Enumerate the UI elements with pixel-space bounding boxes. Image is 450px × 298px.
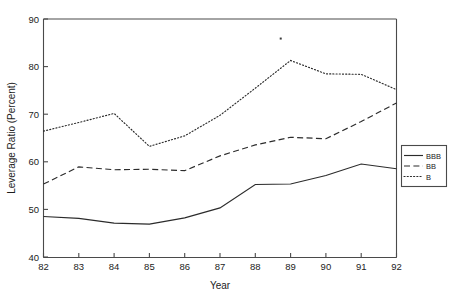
series-line-b bbox=[44, 61, 397, 147]
chart-figure: 90 80 70 60 50 40 82 83 84 85 8 bbox=[0, 0, 450, 298]
x-tick-label-86: 86 bbox=[179, 261, 190, 272]
data-series-group bbox=[44, 61, 397, 225]
x-axis-tick-labels: 82 83 84 85 86 87 88 89 90 91 92 bbox=[38, 261, 402, 272]
legend-label-bbb: BBB bbox=[426, 152, 441, 161]
x-tick-label-82: 82 bbox=[38, 261, 49, 272]
x-tick-label-88: 88 bbox=[250, 261, 261, 272]
legend-label-b: B bbox=[426, 173, 431, 182]
x-tick-label-92: 92 bbox=[391, 261, 402, 272]
y-axis-tick-labels: 90 80 70 60 50 40 bbox=[28, 14, 39, 263]
x-tick-label-91: 91 bbox=[356, 261, 367, 272]
y-tick-label-80: 80 bbox=[28, 61, 39, 72]
plot-frame bbox=[44, 19, 397, 258]
line-chart-canvas: 90 80 70 60 50 40 82 83 84 85 8 bbox=[0, 0, 450, 298]
x-tick-label-84: 84 bbox=[109, 261, 120, 272]
x-tick-label-85: 85 bbox=[144, 261, 155, 272]
x-tick-label-87: 87 bbox=[215, 261, 226, 272]
x-tick-label-89: 89 bbox=[285, 261, 296, 272]
y-axis-ticks bbox=[44, 19, 49, 257]
y-tick-label-90: 90 bbox=[28, 14, 39, 25]
legend-label-bb: BB bbox=[426, 162, 436, 171]
series-line-bbb bbox=[44, 164, 397, 224]
y-tick-label-60: 60 bbox=[28, 156, 39, 167]
x-tick-label-83: 83 bbox=[74, 261, 85, 272]
x-axis-ticks bbox=[44, 253, 397, 258]
x-axis-title: Year bbox=[210, 280, 231, 291]
y-tick-label-70: 70 bbox=[28, 109, 39, 120]
x-tick-label-90: 90 bbox=[321, 261, 332, 272]
y-tick-label-50: 50 bbox=[28, 204, 39, 215]
scan-speck-artifact bbox=[280, 38, 282, 40]
y-axis-title: Leverage Ratio (Percent) bbox=[6, 82, 17, 194]
chart-legend: BBB BB B bbox=[402, 146, 447, 187]
